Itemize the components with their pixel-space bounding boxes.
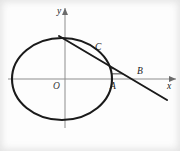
y-axis-arrowhead (62, 8, 68, 15)
origin-label: O (53, 82, 60, 92)
axes-group (8, 8, 176, 128)
x-axis-label: x (167, 82, 171, 92)
y-axis-label: y (57, 7, 61, 17)
geometry-figure: y x O C A B (0, 0, 180, 151)
point-label-a: A (110, 82, 116, 92)
diagram-canvas (0, 0, 180, 151)
point-label-c: C (95, 43, 101, 53)
point-label-b: B (137, 67, 143, 77)
